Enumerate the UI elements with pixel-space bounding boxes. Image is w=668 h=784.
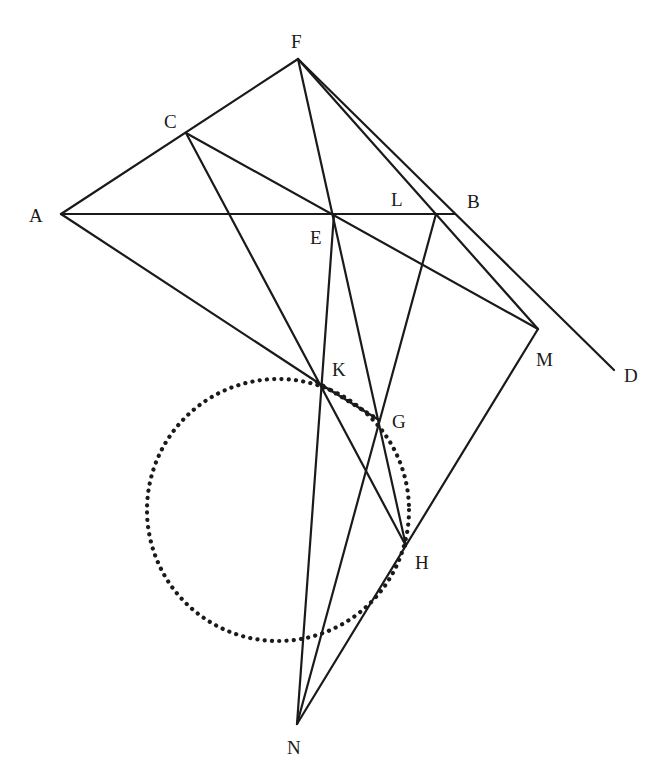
segment-AF xyxy=(61,59,298,214)
segment-LN xyxy=(297,214,436,724)
point-label-E: E xyxy=(310,227,322,248)
segment-KG xyxy=(317,382,379,420)
point-label-H: H xyxy=(415,552,429,573)
segment-MN xyxy=(297,329,538,724)
point-label-M: M xyxy=(536,349,553,370)
point-label-K: K xyxy=(332,359,346,380)
point-label-B: B xyxy=(467,191,480,212)
dotted-circle xyxy=(147,379,409,641)
dotted-circle-arc xyxy=(147,379,409,641)
point-label-D: D xyxy=(624,365,638,386)
point-label-F: F xyxy=(291,31,302,52)
segment-FM xyxy=(298,59,538,329)
point-label-C: C xyxy=(164,111,177,132)
point-label-A: A xyxy=(29,205,43,226)
point-label-N: N xyxy=(287,737,301,758)
point-labels: ACFELBMDKGHN xyxy=(29,31,638,758)
geometry-figure: ACFELBMDKGHN xyxy=(0,0,668,784)
point-label-L: L xyxy=(391,189,403,210)
point-label-G: G xyxy=(392,411,406,432)
segment-AK xyxy=(61,214,317,382)
segment-EN xyxy=(297,214,334,724)
